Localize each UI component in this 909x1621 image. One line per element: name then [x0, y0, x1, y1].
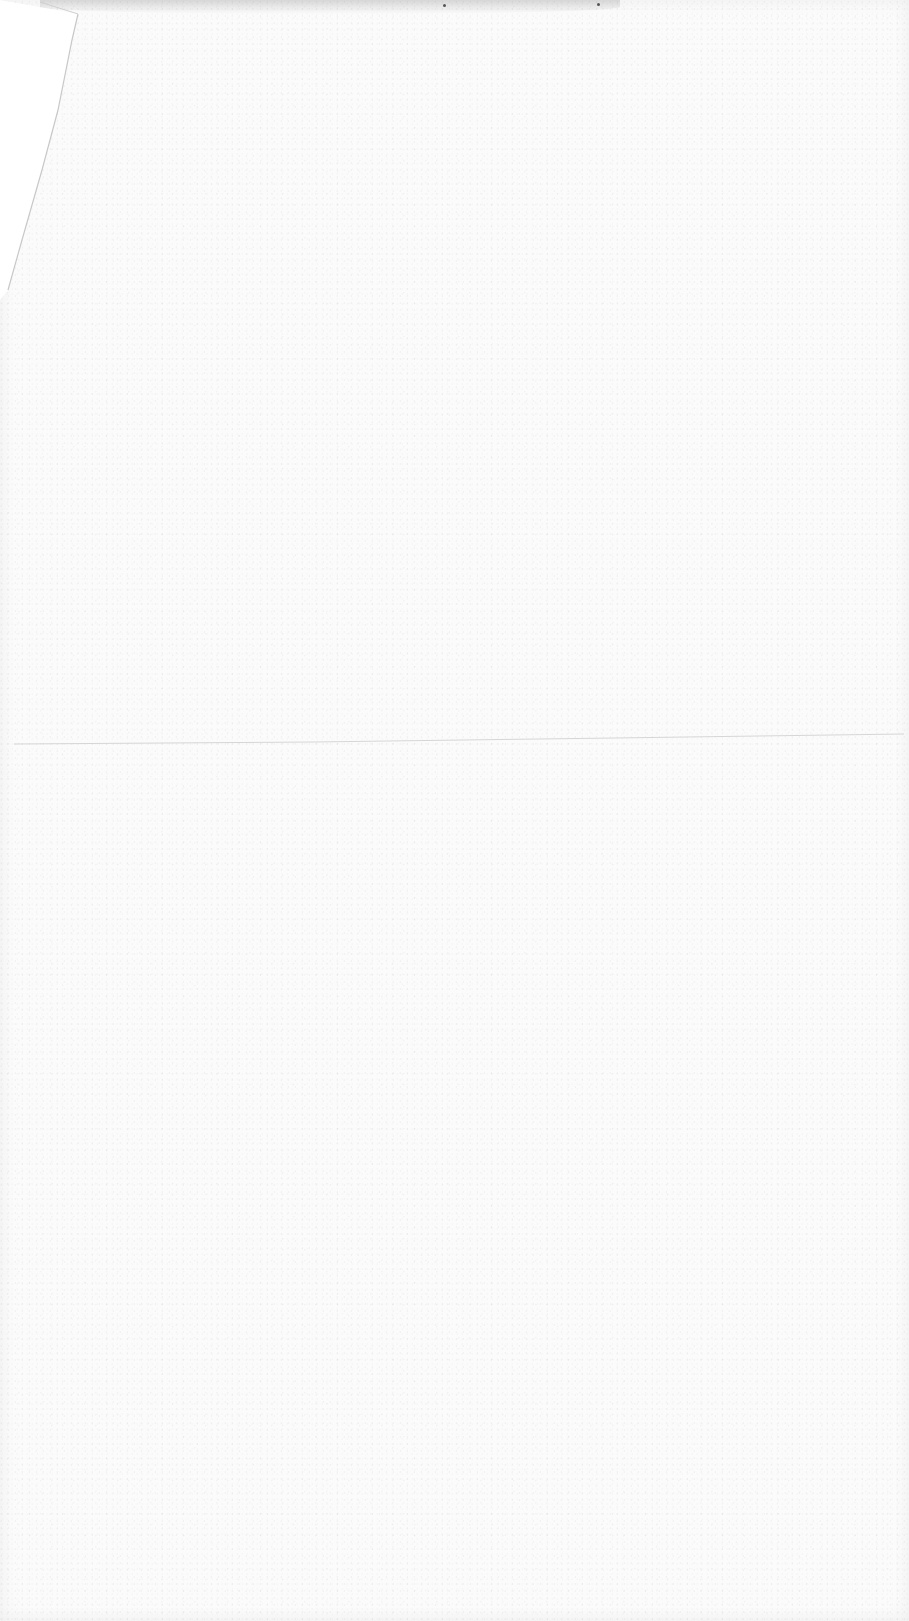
folded-corner — [0, 0, 90, 300]
dust-speck — [443, 4, 446, 7]
top-edge-shadow — [40, 0, 620, 14]
blank-paper-page — [0, 0, 909, 1621]
fold-crease-line — [14, 730, 904, 750]
dust-speck — [597, 3, 600, 6]
